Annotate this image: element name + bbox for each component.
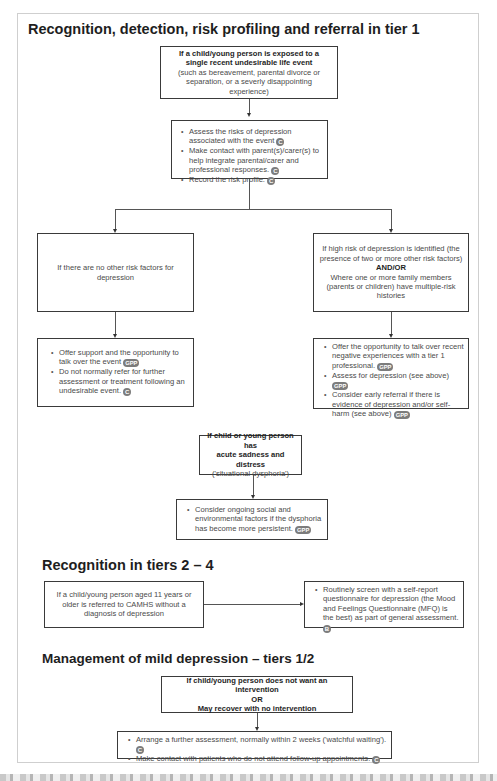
action-item: Make contact with patients who do not at… (136, 754, 388, 764)
gpp-badge-icon: GPP (332, 382, 348, 390)
grade-badge-icon: C (271, 167, 279, 175)
start-line2: single recent undesirable life event (186, 58, 313, 67)
assess-item: Assess the risks of depression associate… (189, 127, 322, 146)
connector (115, 312, 116, 336)
mild-condition-box: If child/young person does not want an i… (161, 676, 353, 713)
family-history-condition: Where one or more family members (parent… (318, 273, 464, 301)
connector (391, 312, 392, 336)
connector (249, 179, 250, 209)
start-detail: (such as bereavement, parental divorce o… (167, 68, 331, 96)
action-item: Routinely screen with a self-report ques… (323, 585, 460, 633)
mild-actions-box: Arrange a further assessment, normally w… (117, 731, 392, 759)
no-risk-actions-box: Offer support and the opportunity to tal… (37, 338, 194, 407)
mild-condition-a: If child/young person does not want an i… (166, 676, 348, 695)
grade-badge-icon: C (123, 388, 131, 396)
action-item: Consider ongoing social and environmenta… (195, 505, 324, 534)
dysphoria-line2: acute sadness and distress (203, 450, 298, 469)
assess-item: Record the risk profile. C (189, 175, 322, 185)
mild-condition-b: May recover with no intervention (198, 704, 317, 713)
gpp-badge-icon: GPP (377, 363, 393, 371)
camhs-condition-box: If a child/young person aged 11 years or… (44, 581, 204, 628)
high-risk-actions-box: Offer the opportunity to talk over recen… (313, 338, 469, 409)
and-or-label: AND/OR (376, 263, 406, 272)
grade-badge-icon: C (276, 138, 284, 146)
camhs-condition: If a child/young person aged 11 years or… (55, 590, 193, 618)
connector (249, 99, 250, 114)
section-title-mild-depression: Management of mild depression – tiers 1/… (42, 651, 314, 666)
dysphoria-box: If child or young person has acute sadne… (199, 435, 302, 475)
grade-badge-icon: C (136, 746, 144, 754)
grade-badge-icon: B (323, 625, 331, 633)
grade-badge-icon: C (267, 177, 275, 185)
connector (115, 209, 116, 231)
connector (204, 604, 301, 605)
gpp-badge-icon: GPP (123, 359, 139, 367)
section-title-tier1: Recognition, detection, risk profiling a… (28, 21, 420, 37)
action-item: Consider early referral if there is evid… (332, 390, 465, 419)
assess-box: Assess the risks of depression associate… (171, 120, 328, 179)
gpp-badge-icon: GPP (295, 526, 311, 534)
action-item: Offer the opportunity to talk over recen… (332, 342, 465, 371)
start-line1: If a child/young person is exposed to a (179, 49, 319, 58)
dysphoria-detail: ('situational dysphoria') (212, 469, 289, 478)
no-risk-box: If there are no other risk factors for d… (37, 233, 194, 312)
high-risk-box: If high risk of depression is identified… (313, 233, 469, 312)
no-risk-condition: If there are no other risk factors for d… (56, 263, 175, 282)
page-edge (0, 774, 497, 781)
grade-badge-icon: C (372, 756, 380, 764)
section-title-tiers2-4: Recognition in tiers 2 – 4 (42, 557, 214, 573)
start-box: If a child/young person is exposed to a … (160, 46, 338, 99)
dysphoria-action-box: Consider ongoing social and environmenta… (176, 499, 328, 540)
screen-action-box: Routinely screen with a self-report ques… (304, 581, 464, 628)
or-label: OR (251, 695, 262, 704)
action-item: Do not normally refer for further assess… (59, 367, 187, 396)
assess-item: Make contact with parent(s)/carer(s) to … (189, 146, 322, 175)
dysphoria-line1: If child or young person has (203, 431, 298, 450)
high-risk-condition: If high risk of depression is identified… (318, 244, 464, 263)
connector (391, 209, 392, 231)
gpp-badge-icon: GPP (394, 411, 410, 419)
action-item: Assess for depression (see above) GPP (332, 371, 465, 390)
action-item: Arrange a further assessment, normally w… (136, 735, 388, 754)
connector (115, 209, 392, 210)
arrow-icon (247, 113, 251, 117)
connector (253, 475, 254, 497)
action-item: Offer support and the opportunity to tal… (59, 348, 187, 367)
